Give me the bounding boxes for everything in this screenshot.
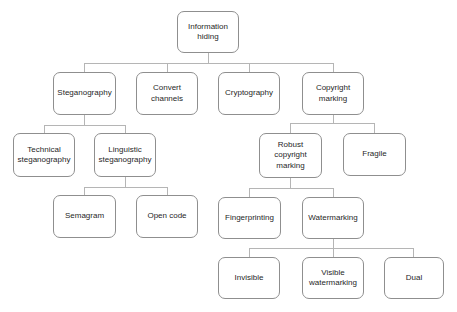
connector-line — [249, 248, 250, 257]
connector-line — [44, 125, 125, 126]
node-fragile: Fragile — [343, 133, 406, 176]
connector-line — [374, 123, 375, 133]
connector-line — [290, 123, 291, 133]
connector-line — [84, 63, 85, 72]
node-convert-channels: Convert channels — [136, 72, 198, 115]
connector-line — [44, 125, 45, 133]
node-technical-steganography: Technical steganography — [13, 133, 75, 177]
node-invisible: Invisible — [218, 257, 280, 299]
connector-line — [333, 248, 334, 257]
connector-line — [333, 239, 334, 248]
connector-line — [167, 63, 168, 72]
node-robust-copyright-marking: Robust copyright marking — [259, 133, 322, 178]
connector-line — [249, 63, 250, 72]
connector-line — [84, 187, 167, 188]
connector-line — [84, 63, 333, 64]
taxonomy-tree-diagram: Information hiding Steganography Convert… — [0, 0, 457, 312]
connector-line — [167, 187, 168, 195]
connector-line — [125, 125, 126, 133]
node-information-hiding: Information hiding — [177, 11, 239, 53]
connector-line — [208, 53, 209, 63]
connector-line — [84, 115, 85, 125]
connector-line — [84, 187, 85, 195]
node-semagram: Semagram — [53, 195, 116, 238]
connector-line — [290, 123, 374, 124]
node-open-code: Open code — [136, 195, 198, 238]
node-cryptography: Cryptography — [218, 72, 280, 115]
connector-line — [249, 188, 250, 197]
connector-line — [249, 188, 333, 189]
node-fingerprinting: Fingerprinting — [218, 197, 281, 239]
connector-line — [333, 115, 334, 123]
connector-line — [290, 178, 291, 188]
connector-line — [333, 188, 334, 197]
node-dual: Dual — [384, 257, 444, 299]
connector-line — [249, 248, 414, 249]
connector-line — [333, 63, 334, 72]
connector-line — [413, 248, 414, 257]
node-visible-watermarking: Visible watermarking — [302, 257, 364, 299]
connector-line — [125, 177, 126, 187]
node-steganography: Steganography — [53, 72, 116, 115]
node-linguistic-steganography: Linguistic steganography — [94, 133, 156, 177]
node-copyright-marking: Copyright marking — [302, 72, 364, 115]
node-watermarking: Watermarking — [302, 197, 364, 239]
